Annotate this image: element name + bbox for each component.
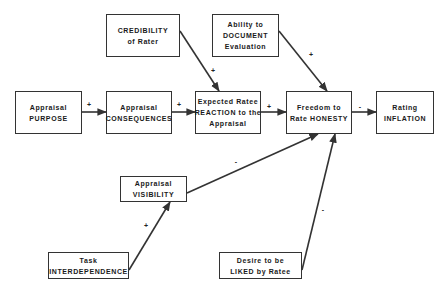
node-label-line: Task: [80, 255, 98, 266]
edge-visibility-to-honesty: [187, 134, 318, 193]
edge-sign-label: +: [309, 51, 313, 58]
edge-sign-label: -: [359, 103, 361, 110]
node-liked: Desire to beLIKED by Ratee: [219, 252, 302, 279]
edge-sign-label: +: [267, 103, 271, 110]
edge-interdependence-to-visibility: [129, 202, 170, 270]
edge-sign-label: +: [177, 101, 181, 108]
edge-sign-label: -: [322, 206, 324, 213]
node-label-line: LIKED by Ratee: [230, 266, 291, 277]
node-label-line: DOCUMENT: [223, 30, 268, 41]
node-label-line: Desire to be: [237, 255, 284, 266]
node-label-line: INTERDEPENDENCE: [49, 266, 128, 277]
edge-sign-label: -: [235, 158, 237, 165]
edge-sign-label: +: [144, 222, 148, 229]
node-visibility: AppraisalVISIBILITY: [120, 176, 187, 202]
node-label-line: Rating: [392, 102, 417, 113]
node-label-line: Ability to: [228, 19, 264, 30]
node-label-line: Evaluation: [225, 41, 266, 52]
edge-document-to-honesty: [279, 31, 327, 91]
node-credibility: CREDIBILITYof Rater: [106, 14, 180, 57]
node-reaction: Expected RateeREACTION to theAppraisal: [195, 91, 261, 134]
node-label-line: Appraisal: [135, 178, 172, 189]
node-label-line: PURPOSE: [29, 113, 67, 124]
edge-sign-label: +: [87, 101, 91, 108]
node-label-line: INFLATION: [384, 113, 426, 124]
node-inflation: RatingINFLATION: [376, 91, 434, 134]
edge-sign-label: +: [211, 67, 215, 74]
node-label-line: Appraisal: [30, 102, 67, 113]
node-interdependence: TaskINTERDEPENDENCE: [48, 252, 129, 279]
node-label-line: Freedom to: [297, 102, 341, 113]
node-label-line: of Rater: [127, 36, 158, 47]
node-label-line: REACTION to the: [195, 107, 262, 118]
node-document: Ability toDOCUMENTEvaluation: [212, 14, 279, 57]
node-label-line: VISIBILITY: [133, 189, 174, 200]
node-label-line: Appraisal: [120, 102, 157, 113]
node-purpose: AppraisalPURPOSE: [15, 91, 82, 134]
node-label-line: Rate HONESTY: [290, 113, 348, 124]
node-label-line: CONSEQUENCES: [106, 113, 173, 124]
node-label-line: CREDIBILITY: [118, 25, 169, 36]
node-label-line: Expected Ratee: [198, 96, 259, 107]
edge-liked-to-honesty: [302, 134, 335, 270]
node-honesty: Freedom toRate HONESTY: [286, 91, 352, 134]
node-label-line: Appraisal: [209, 118, 246, 129]
node-consequences: AppraisalCONSEQUENCES: [106, 91, 172, 134]
